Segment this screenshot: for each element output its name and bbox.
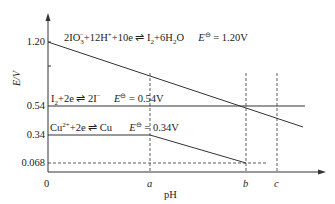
y-tick-label-0.068: 0.068 xyxy=(5,158,45,169)
copper-eq-sup: 2+ xyxy=(62,121,69,129)
x-tick-label-a: a xyxy=(147,179,152,190)
y-tick-label-0.34: 0.34 xyxy=(5,130,45,141)
iodine-equation: I2+2e ⇌ 2I− E⊖ = 0.54V xyxy=(51,94,164,105)
iodate-equation: 2IO3−+12H++10e ⇌ I2+6H2O E⊖ = 1.20V xyxy=(64,33,248,44)
iodate-eq-part: +6H xyxy=(154,32,173,43)
y-tick-label-1.20: 1.20 xyxy=(5,37,45,48)
x-axis-label: pH xyxy=(164,190,177,201)
x-tick-label-b: b xyxy=(243,179,248,190)
iodate-eq-part: O xyxy=(176,32,184,43)
copper-potential-value: = 0.34V xyxy=(142,122,179,133)
origin-label: 0 xyxy=(44,179,49,190)
copper-equation: Cu2++2e ⇌ Cu E⊖ = 0.34V xyxy=(50,123,179,134)
y-axis-label: E/V xyxy=(12,71,22,86)
y-axis-arrow-icon xyxy=(46,13,51,21)
iodate-line xyxy=(48,42,303,127)
iodine-eq-sup: − xyxy=(97,92,101,100)
iodine-potential-value: = 0.54V xyxy=(126,93,163,104)
x-tick-label-c: c xyxy=(274,179,279,190)
y-tick-label-0.54: 0.54 xyxy=(5,101,45,112)
iodate-eq-part: +10e ⇌ I xyxy=(112,32,151,43)
copper-line xyxy=(48,135,246,163)
iodine-eq-part: +2e ⇌ 2I xyxy=(58,93,97,104)
iodate-potential-value: = 1.20V xyxy=(211,32,248,43)
x-axis-arrow-icon xyxy=(318,170,326,175)
copper-eq-part: Cu xyxy=(50,122,62,133)
iodate-eq-sub: 3 xyxy=(80,38,84,46)
iodate-eq-part: +12H xyxy=(84,32,108,43)
iodate-eq-part: 2IO xyxy=(64,32,80,43)
copper-eq-part: +2e ⇌ Cu xyxy=(70,122,112,133)
